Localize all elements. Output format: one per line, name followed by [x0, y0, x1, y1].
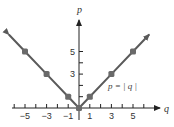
- y-tick-label: 3: [70, 69, 75, 79]
- x-tick-label: 5: [130, 111, 135, 121]
- y-tick-labels: 35: [70, 47, 75, 80]
- data-point-marker: [87, 94, 93, 100]
- x-tick-label: 1: [87, 111, 92, 121]
- data-point-marker: [65, 94, 71, 100]
- x-tick-label: 3: [109, 111, 114, 121]
- data-point-marker: [108, 71, 114, 77]
- x-axis-label: q: [164, 103, 169, 114]
- data-point-marker: [130, 49, 136, 55]
- data-point-marker: [44, 71, 50, 77]
- equation-annotation: p = | q |: [107, 81, 137, 91]
- x-tick-labels: −5−3−1135: [20, 111, 136, 121]
- abs-value-plot: −5−3−1135 35 q p p = | q |: [0, 0, 174, 127]
- data-point-marker: [76, 105, 82, 111]
- chart: −5−3−1135 35 q p p = | q |: [0, 0, 174, 127]
- x-tick-label: −3: [41, 111, 51, 121]
- x-tick-label: −5: [20, 111, 30, 121]
- y-axis-label: p: [76, 4, 82, 15]
- data-point-marker: [22, 49, 28, 55]
- x-tick-label: −1: [63, 111, 73, 121]
- y-tick-label: 5: [70, 47, 75, 57]
- y-ticks: [79, 52, 83, 97]
